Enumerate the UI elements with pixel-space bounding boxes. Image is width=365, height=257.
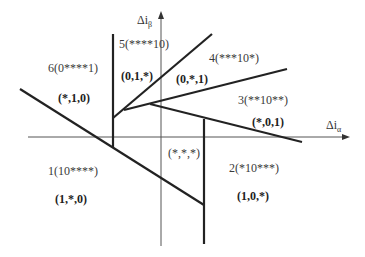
- region-5-name: 5(****10): [119, 38, 169, 50]
- region-1-vector: (1,*,0): [55, 193, 87, 205]
- region-4-name: 4(***10*): [209, 52, 259, 64]
- switching-region-diagram: [0, 0, 365, 257]
- y-axis-label-text: Δi: [137, 13, 148, 27]
- region-6-vector: (*,1,0): [58, 92, 90, 104]
- x-axis-label-text: Δi: [326, 118, 337, 132]
- region-3-vector: (*,0,1): [252, 116, 284, 128]
- x-axis-label: Δiα: [326, 118, 341, 134]
- x-axis-label-sub: α: [337, 125, 341, 134]
- center-region-label: (*,*,*): [168, 147, 200, 159]
- y-axis-arrow-icon: [158, 11, 164, 19]
- region-5-vector: (0,1,*): [121, 70, 153, 82]
- y-axis-label-sub: β: [148, 20, 152, 29]
- region-2-name: 2(*10***): [229, 162, 279, 174]
- region-3-name: 3(**10**): [238, 94, 288, 106]
- region-2-vector: (1,0,*): [237, 190, 269, 202]
- region-6-name: 6(0****1): [48, 62, 98, 74]
- region-1-name: 1(10****): [48, 165, 98, 177]
- x-axis-arrow-icon: [342, 134, 350, 140]
- region-4-vector: (0,*,1): [176, 73, 208, 85]
- y-axis-label: Δiβ: [137, 13, 152, 29]
